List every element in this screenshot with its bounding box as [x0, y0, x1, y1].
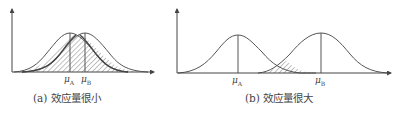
panel-b — [177, 9, 391, 73]
mu-subscript: A — [238, 80, 242, 87]
mu-b-label-panel-b: μB — [315, 75, 325, 87]
mu-subscript: B — [321, 80, 325, 87]
caption-panel-a: (a) 效应量很小 — [33, 90, 101, 105]
curve-b-panel-b — [258, 33, 388, 73]
overlap-region-a — [14, 34, 148, 72]
mu-a-label-panel-b: μA — [232, 75, 242, 87]
mu-a-label-panel-a: μA — [64, 74, 74, 86]
mu-b-label-panel-a: μB — [81, 74, 91, 86]
mu-subscript: A — [70, 79, 74, 86]
curve-b-panel-a — [178, 35, 316, 73]
caption-panel-b: (b) 效应量很大 — [245, 90, 313, 105]
mu-subscript: B — [87, 79, 91, 86]
panel-a — [12, 9, 154, 72]
